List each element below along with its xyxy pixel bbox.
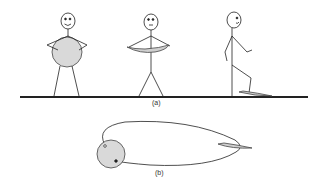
flattened-disk-icon <box>127 45 169 52</box>
panel-a-label: (a) <box>152 99 161 106</box>
panel-b-label: (b) <box>155 169 164 176</box>
flat-sheet-icon <box>218 143 252 148</box>
figure-holding-flattened-shape <box>127 14 170 96</box>
figure-walking-on-sheet <box>225 12 272 97</box>
sphere-icon <box>97 140 125 168</box>
figure-holding-sphere <box>47 13 87 96</box>
head-icon <box>144 14 158 30</box>
diagram-canvas <box>0 0 324 187</box>
sphere-icon <box>52 37 82 67</box>
panel-b-diagram <box>97 121 252 168</box>
head-icon <box>227 12 241 28</box>
flat-sheet-icon <box>239 91 272 96</box>
head-icon <box>61 13 75 29</box>
